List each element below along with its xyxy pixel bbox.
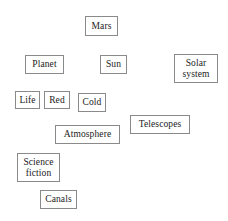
concept-box-telescopes[interactable]: Telescopes — [130, 115, 190, 134]
concept-box-mars[interactable]: Mars — [85, 16, 118, 36]
concept-box-life[interactable]: Life — [15, 91, 40, 109]
concept-box-red[interactable]: Red — [44, 91, 70, 109]
diagram-canvas: MarsPlanetSunSolar systemLifeRedColdTele… — [0, 0, 228, 221]
concept-box-science-fiction[interactable]: Science fiction — [17, 153, 60, 182]
concept-box-solar-system[interactable]: Solar system — [174, 54, 218, 83]
concept-box-cold[interactable]: Cold — [78, 93, 106, 112]
concept-box-planet[interactable]: Planet — [25, 55, 64, 74]
concept-box-sun[interactable]: Sun — [100, 55, 127, 74]
concept-box-atmosphere[interactable]: Atmosphere — [55, 125, 120, 144]
concept-box-canals[interactable]: Canals — [40, 190, 77, 209]
